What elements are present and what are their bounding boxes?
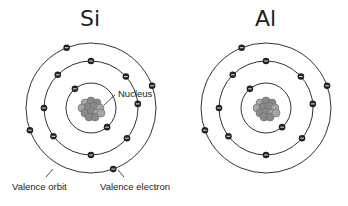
- valence-electron-pointer: [118, 170, 124, 177]
- valence-electron-label: Valence electron: [100, 181, 170, 192]
- atom-diagram: [0, 0, 348, 206]
- nucleus-pointer: [104, 95, 115, 105]
- nucleus-label: Nucleus: [118, 88, 152, 99]
- nucleus-particle: [272, 109, 280, 117]
- valence-orbit-label: Valence orbit: [12, 181, 67, 192]
- nucleus-particle: [97, 109, 105, 117]
- valence-orbit-pointer: [46, 169, 53, 177]
